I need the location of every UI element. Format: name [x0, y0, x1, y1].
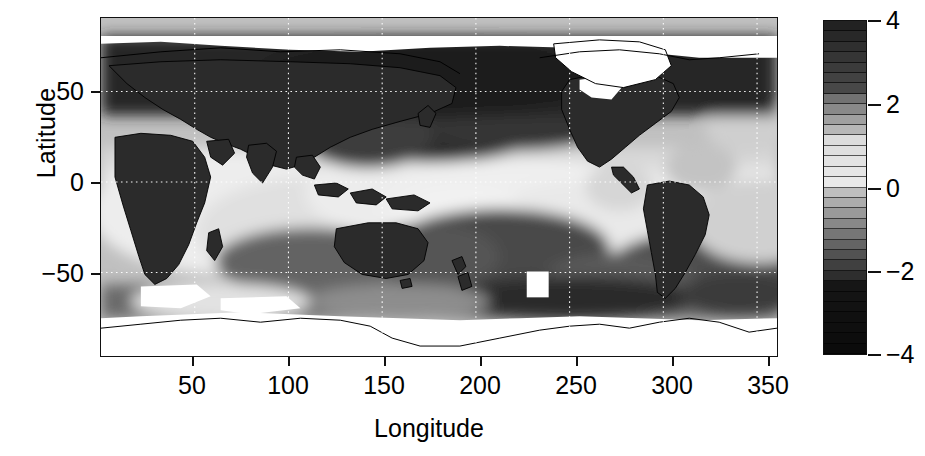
colorbar-divider: [824, 72, 866, 73]
x-tick-mark: [576, 357, 578, 366]
colorbar-tick-label: −2: [886, 256, 925, 286]
colorbar-divider: [824, 51, 866, 52]
x-tick-mark: [384, 357, 386, 366]
colorbar-divider: [824, 259, 866, 260]
colorbar-divider: [824, 62, 866, 63]
x-tick-mark: [768, 357, 770, 366]
x-tick-mark: [192, 357, 194, 366]
colorbar-tick-label: 0: [886, 173, 925, 203]
x-axis-title: Longitude: [289, 412, 569, 444]
y-tick-mark: [91, 273, 100, 275]
colorbar-divider: [824, 270, 866, 271]
colorbar-divider: [824, 124, 866, 125]
world-map-field: [101, 18, 777, 356]
x-tick-label: 50: [152, 370, 232, 400]
colorbar-tick-mark: [868, 188, 881, 190]
colorbar-divider: [824, 311, 866, 312]
colorbar-divider: [824, 114, 866, 115]
colorbar-tick-mark: [868, 354, 881, 356]
y-tick-mark: [91, 91, 100, 93]
colorbar-divider: [824, 228, 866, 229]
colorbar-divider: [824, 30, 866, 31]
colorbar-divider: [824, 41, 866, 42]
y-tick-label: 50: [0, 76, 84, 106]
colorbar-divider: [824, 343, 866, 344]
colorbar-tick-label: 4: [886, 5, 925, 35]
colorbar-divider: [824, 145, 866, 146]
colorbar-tick-mark: [868, 20, 881, 22]
y-tick-label: 0: [0, 167, 84, 197]
figure-root: Latitude: [0, 0, 925, 456]
colorbar-divider: [824, 301, 866, 302]
x-tick-label: 300: [632, 370, 712, 400]
x-tick-mark: [672, 357, 674, 366]
x-tick-mark: [480, 357, 482, 366]
x-tick-label: 350: [728, 370, 808, 400]
x-tick-label: 150: [344, 370, 424, 400]
colorbar-tick-label: 2: [886, 89, 925, 119]
colorbar-divider: [824, 322, 866, 323]
colorbar-divider: [824, 291, 866, 292]
colorbar-divider: [824, 176, 866, 177]
x-tick-label: 250: [536, 370, 616, 400]
colorbar-divider: [824, 82, 866, 83]
y-tick-label: −50: [0, 258, 84, 288]
x-tick-mark: [288, 357, 290, 366]
colorbar-divider: [824, 197, 866, 198]
y-tick-mark: [91, 182, 100, 184]
colorbar-divider: [824, 134, 866, 135]
colorbar-tick-mark: [868, 104, 881, 106]
colorbar-divider: [824, 155, 866, 156]
colorbar-divider: [824, 353, 866, 354]
map-panel: [100, 17, 778, 357]
colorbar-divider: [824, 218, 866, 219]
colorbar-tick-mark: [868, 271, 881, 273]
colorbar-divider: [824, 239, 866, 240]
colorbar-divider: [824, 332, 866, 333]
colorbar-divider: [824, 166, 866, 167]
colorbar: [823, 20, 867, 355]
colorbar-divider: [824, 249, 866, 250]
colorbar-divider: [824, 280, 866, 281]
colorbar-divider: [824, 93, 866, 94]
colorbar-divider: [824, 103, 866, 104]
x-tick-label: 200: [440, 370, 520, 400]
x-tick-label: 100: [248, 370, 328, 400]
map-plot-area: [101, 18, 777, 356]
colorbar-tick-label: −4: [886, 339, 925, 369]
colorbar-divider: [824, 207, 866, 208]
colorbar-divider: [824, 187, 866, 188]
